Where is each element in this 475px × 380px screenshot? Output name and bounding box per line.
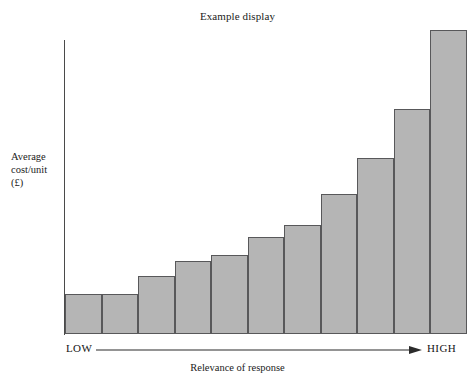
x-axis-caption: Relevance of response	[0, 362, 475, 373]
bar-series	[65, 30, 467, 334]
bar	[138, 276, 175, 334]
x-axis-low-label: LOW	[66, 342, 92, 354]
bar	[175, 261, 212, 334]
plot-area	[0, 0, 475, 380]
bar	[65, 294, 102, 334]
x-axis-arrow-icon	[96, 343, 422, 357]
x-axis-high-label: HIGH	[427, 342, 456, 354]
bar	[284, 225, 321, 334]
chart-figure: Example display Average cost/unit (£) LO…	[0, 0, 475, 380]
bar	[357, 158, 394, 334]
bar	[321, 194, 358, 334]
bar	[394, 109, 431, 334]
bar	[102, 294, 139, 334]
bar	[211, 255, 248, 334]
bar	[430, 30, 467, 334]
bar	[248, 237, 285, 334]
